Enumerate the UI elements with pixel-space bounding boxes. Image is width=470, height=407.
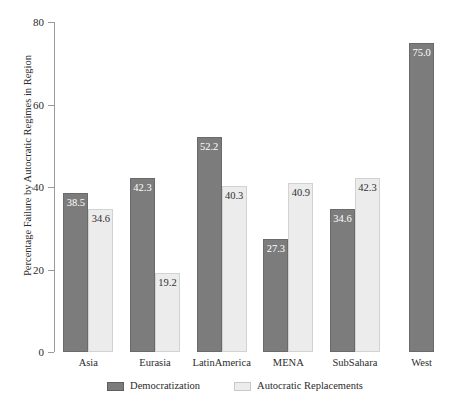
bar-eurasia-democratization: 42.3: [130, 178, 155, 352]
legend-entry-autocratic-replacements[interactable]: Autocratic Replacements: [234, 380, 363, 392]
y-axis-tick-label: 60: [4, 100, 44, 111]
bar-latinamerica-democratization: 52.2: [197, 137, 222, 352]
x-axis-label-eurasia: Eurasia: [122, 357, 189, 369]
bar-subsahara-autocratic-replacements: 42.3: [355, 178, 380, 352]
x-axis-label-subsahara: SubSahara: [322, 357, 389, 369]
y-axis-tick: [48, 270, 55, 271]
y-axis-tick-label: 80: [4, 17, 44, 28]
y-axis-tick-label: 40: [4, 182, 44, 193]
x-axis-label-west: West: [388, 357, 455, 369]
x-axis-line: [54, 352, 455, 353]
bar-value-label: 34.6: [89, 213, 112, 225]
y-axis-tick: [48, 187, 55, 188]
legend-swatch-icon: [234, 382, 251, 391]
bar-value-label: 75.0: [410, 47, 433, 59]
legend-swatch-icon: [107, 382, 124, 391]
x-axis-label-asia: Asia: [55, 357, 122, 369]
bar-value-label: 42.3: [356, 182, 379, 194]
bar-value-label: 38.5: [64, 197, 87, 209]
bar-subsahara-democratization: 34.6: [330, 209, 355, 352]
bar-mena-autocratic-replacements: 40.9: [288, 183, 313, 352]
y-axis-title: Percentage Failure by Autocratic Regimes…: [22, 36, 33, 296]
bar-asia-autocratic-replacements: 34.6: [88, 209, 113, 352]
bar-west-democratization: 75.0: [409, 43, 434, 352]
y-axis-tick-label: 20: [4, 265, 44, 276]
chart-legend: DemocratizationAutocratic Replacements: [0, 380, 470, 392]
legend-label: Autocratic Replacements: [257, 380, 363, 392]
bar-mena-democratization: 27.3: [263, 239, 288, 352]
x-axis-label-mena: MENA: [255, 357, 322, 369]
y-axis-tick-label: 0: [4, 347, 44, 358]
bar-value-label: 27.3: [264, 243, 287, 255]
y-axis-tick: [48, 105, 55, 106]
x-axis-label-latinamerica: LatinAmerica: [188, 357, 255, 369]
plot-area: 38.534.642.319.252.240.327.340.934.642.3…: [55, 22, 455, 352]
bar-latinamerica-autocratic-replacements: 40.3: [222, 186, 247, 352]
bar-value-label: 40.3: [223, 190, 246, 202]
bar-value-label: 52.2: [198, 141, 221, 153]
legend-label: Democratization: [130, 380, 200, 392]
y-axis-tick: [48, 22, 55, 23]
bar-value-label: 34.6: [331, 213, 354, 225]
bar-value-label: 19.2: [156, 277, 179, 289]
bar-value-label: 42.3: [131, 182, 154, 194]
bar-value-label: 40.9: [289, 187, 312, 199]
bar-eurasia-autocratic-replacements: 19.2: [155, 273, 180, 352]
bar-chart-figure: cropped caption text above figure Percen…: [0, 0, 470, 407]
bar-asia-democratization: 38.5: [63, 193, 88, 352]
legend-entry-democratization[interactable]: Democratization: [107, 380, 200, 392]
